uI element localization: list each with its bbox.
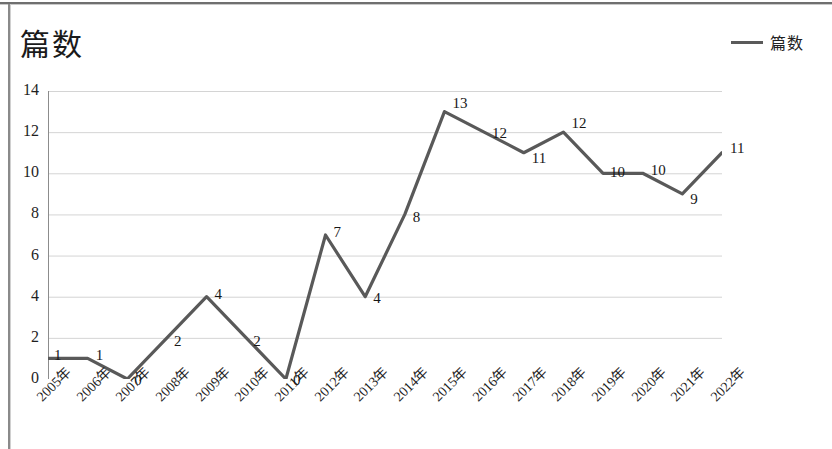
y-axis-label: 0 xyxy=(0,369,39,387)
y-axis-label: 14 xyxy=(0,81,39,99)
line-chart-svg xyxy=(48,91,722,379)
data-series-line xyxy=(48,112,722,379)
y-axis-label: 10 xyxy=(0,163,39,181)
chart-screenshot: 篇数 篇数 024681012142005年2006年2007年2008年200… xyxy=(0,0,832,449)
y-axis-label: 8 xyxy=(0,204,39,222)
legend-line-swatch xyxy=(731,41,763,44)
chart-legend: 篇数 xyxy=(731,30,804,54)
y-axis-label: 2 xyxy=(0,328,39,346)
plot-area xyxy=(48,91,722,379)
page-border-left-inner xyxy=(10,4,11,449)
y-axis-label: 4 xyxy=(0,287,39,305)
data-point-label: 11 xyxy=(730,140,744,157)
y-axis-label: 6 xyxy=(0,246,39,264)
y-axis-label: 12 xyxy=(0,122,39,140)
page-border-top-inner xyxy=(0,4,832,5)
legend-label-series-1: 篇数 xyxy=(770,30,804,54)
chart-title: 篇数 xyxy=(20,20,84,64)
